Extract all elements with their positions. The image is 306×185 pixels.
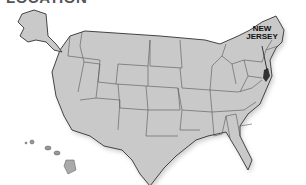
new-jersey-label: NEW JERSEY: [240, 25, 284, 41]
hawaii: [25, 140, 76, 174]
label-line-2: JERSEY: [240, 33, 284, 41]
alaska: [18, 10, 62, 52]
contiguous-us: [52, 16, 284, 185]
